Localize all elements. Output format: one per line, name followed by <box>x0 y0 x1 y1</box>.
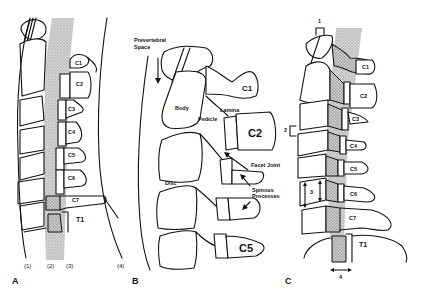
label-body: Body <box>175 105 190 111</box>
label-a-c1: C1 <box>75 60 82 66</box>
measure-label-4: 4 <box>339 274 343 280</box>
c4-body <box>20 126 44 154</box>
label-c-c4: C4 <box>350 143 358 149</box>
c-c7-spinous <box>340 208 391 231</box>
label-b-c5: C5 <box>239 242 253 254</box>
panel-label-a: A <box>12 276 19 286</box>
panel-b: Prevertebral Space Body C1 Lamina Pedicl… <box>132 37 280 286</box>
c-c7-body <box>302 206 326 234</box>
label-b-c2: C2 <box>248 127 262 139</box>
label-lamina: Lamina <box>220 107 240 113</box>
c-c6-spinous <box>344 186 375 202</box>
c5-body <box>20 152 44 180</box>
label-c-c1: C1 <box>362 64 369 70</box>
c2-facet <box>60 74 70 98</box>
line-label-4: (4) <box>117 263 124 269</box>
b-c3-body <box>159 132 202 182</box>
measure-label-1: 1 <box>318 18 321 24</box>
line-label-1: (1) <box>24 263 31 269</box>
label-c-c6: C6 <box>350 191 357 197</box>
label-a-t1: T1 <box>76 216 84 223</box>
label-a-c2: C2 <box>76 81 83 87</box>
line-4-posterior <box>98 18 122 258</box>
label-c-c2: C2 <box>360 93 367 99</box>
label-prevertebral-1: Prevertebral <box>134 37 167 43</box>
panel-label-c: C <box>285 276 292 286</box>
b-c3-spinous <box>232 170 264 184</box>
label-a-c4: C4 <box>68 129 76 135</box>
label-c-c7: C7 <box>349 215 356 221</box>
label-c-t1: T1 <box>359 241 367 248</box>
cervical-spine-figure: C1 C2 C3 C4 C5 C6 C7 T1 <box>0 0 421 293</box>
measure-2-bracket <box>290 126 296 136</box>
panel-a: C1 C2 C3 C4 C5 C6 C7 T1 <box>12 18 124 286</box>
label-prevertebral-2: Space <box>134 44 150 50</box>
measure-1-bracket <box>316 28 324 35</box>
label-a-c7: C7 <box>72 197 79 203</box>
label-disc: Disc <box>165 180 177 186</box>
label-a-c5: C5 <box>68 152 75 158</box>
label-pedicle: Pedicle <box>198 116 217 122</box>
label-c-c3: C3 <box>352 116 359 122</box>
c-c3-body <box>300 100 328 130</box>
c-c5-body <box>298 154 326 178</box>
b-c4-body <box>157 186 197 230</box>
line-label-3: (3) <box>66 263 73 269</box>
b-c5-body <box>159 231 197 270</box>
label-b-c1: C1 <box>242 84 253 93</box>
c-c2-body <box>300 62 330 103</box>
prevertebral-soft-tissue-line <box>138 56 150 270</box>
c6-body <box>18 178 44 204</box>
panel-label-b: B <box>132 276 139 286</box>
c7-body <box>20 202 44 230</box>
panel-c: 1 C1 C2 C3 2 C4 C5 <box>284 18 407 286</box>
label-a-c3: C3 <box>68 106 75 112</box>
line-label-2: (2) <box>47 263 54 269</box>
label-a-c6: C6 <box>68 175 75 181</box>
label-spinous-2: Processes <box>252 193 280 199</box>
label-facet-joint: Facet Joint <box>251 162 280 168</box>
measure-label-3: 3 <box>310 189 313 195</box>
label-c-c5: C5 <box>350 166 357 172</box>
b-c1-posterior <box>206 66 258 98</box>
measure-label-2: 2 <box>284 127 287 133</box>
c2-body <box>20 39 46 96</box>
c3-body <box>20 96 44 126</box>
c-c4-body <box>298 130 328 156</box>
